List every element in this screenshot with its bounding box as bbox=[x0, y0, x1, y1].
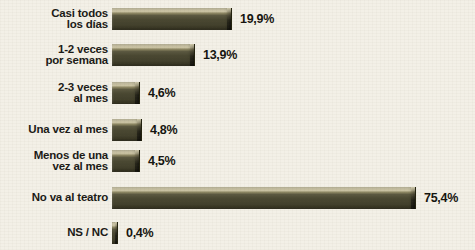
bar bbox=[112, 119, 142, 141]
bar-chart: Casi todos los días 19,9% 1-2 veces por … bbox=[0, 0, 475, 250]
bar-area: 4,6% bbox=[112, 78, 475, 108]
value-label: 4,5% bbox=[148, 154, 175, 168]
bar-area: 75,4% bbox=[112, 184, 475, 212]
chart-row: NS / NC 0,4% bbox=[0, 220, 475, 246]
category-label: 1-2 veces por semana bbox=[0, 44, 112, 67]
category-label: NS / NC bbox=[0, 227, 112, 239]
bar bbox=[112, 44, 195, 66]
bar-area: 13,9% bbox=[112, 40, 475, 70]
bar-area: 0,4% bbox=[112, 220, 475, 246]
bar bbox=[112, 150, 140, 172]
category-label: No va al teatro bbox=[0, 192, 112, 204]
bar bbox=[112, 82, 140, 104]
bar-area: 19,9% bbox=[112, 4, 475, 34]
value-label: 4,8% bbox=[150, 123, 177, 137]
category-label: 2-3 veces al mes bbox=[0, 82, 112, 105]
bar bbox=[112, 187, 416, 209]
bar bbox=[112, 8, 232, 30]
bar-area: 4,5% bbox=[112, 146, 475, 176]
value-label: 13,9% bbox=[203, 48, 237, 62]
value-label: 75,4% bbox=[424, 191, 458, 205]
category-label: Una vez al mes bbox=[0, 124, 112, 136]
chart-row: No va al teatro 75,4% bbox=[0, 184, 475, 212]
category-label: Casi todos los días bbox=[0, 8, 112, 31]
chart-row: Casi todos los días 19,9% bbox=[0, 4, 475, 34]
category-label: Menos de una vez al mes bbox=[0, 150, 112, 173]
value-label: 4,6% bbox=[148, 86, 175, 100]
chart-row: Menos de una vez al mes 4,5% bbox=[0, 146, 475, 176]
bar bbox=[112, 222, 118, 244]
value-label: 0,4% bbox=[126, 226, 153, 240]
chart-row: 2-3 veces al mes 4,6% bbox=[0, 78, 475, 108]
chart-row: Una vez al mes 4,8% bbox=[0, 116, 475, 144]
value-label: 19,9% bbox=[240, 12, 274, 26]
bar-area: 4,8% bbox=[112, 116, 475, 144]
chart-row: 1-2 veces por semana 13,9% bbox=[0, 40, 475, 70]
